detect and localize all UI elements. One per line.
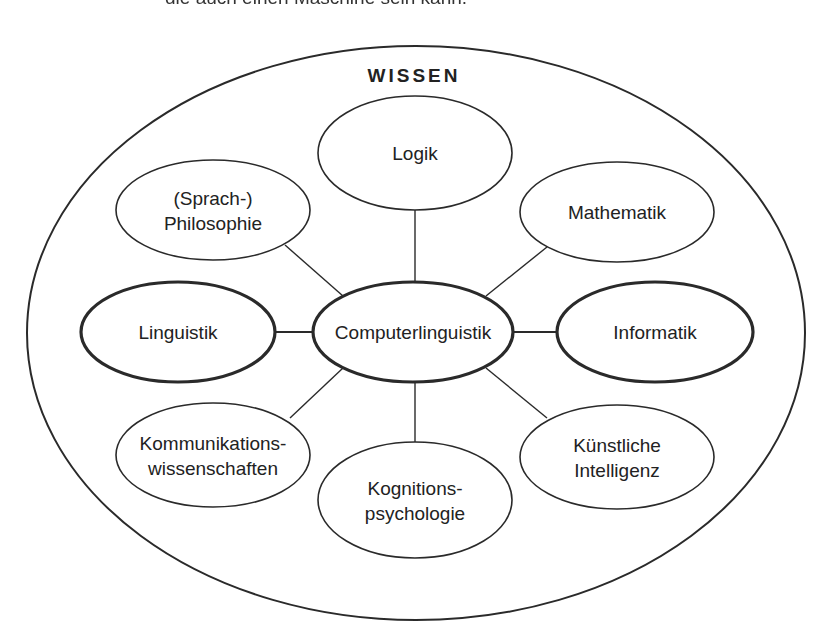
node-kuenstliche-intelligenz: KünstlicheIntelligenz [520, 405, 714, 509]
philosophie-label: Philosophie [164, 213, 262, 234]
node-computerlinguistik: Computerlinguistik [313, 282, 513, 382]
kommunikationswissenschaften-label: wissenschaften [147, 458, 278, 479]
node-kognitionspsychologie: Kognitions-psychologie [318, 442, 512, 558]
kuenstliche-intelligenz-label: Intelligenz [574, 460, 660, 481]
node-mathematik: Mathematik [520, 162, 714, 262]
linguistik-label: Linguistik [138, 322, 218, 343]
informatik-label: Informatik [613, 322, 697, 343]
kuenstliche-intelligenz-ellipse [520, 405, 714, 509]
node-logik: Logik [318, 96, 512, 210]
mathematik-label: Mathematik [568, 202, 667, 223]
node-informatik: Informatik [557, 282, 753, 382]
link-mathematik [486, 247, 547, 296]
node-philosophie: (Sprach-)Philosophie [116, 160, 310, 260]
kommunikationswissenschaften-label: Kommunikations- [140, 433, 287, 454]
kognitionspsychologie-ellipse [318, 442, 512, 558]
link-kommunikationswissenschaften [290, 368, 343, 418]
kognitionspsychologie-label: Kognitions- [367, 478, 462, 499]
computerlinguistik-label: Computerlinguistik [335, 322, 492, 343]
kognitionspsychologie-label: psychologie [365, 503, 465, 524]
kuenstliche-intelligenz-label: Künstliche [573, 435, 661, 456]
philosophie-label: (Sprach-) [173, 188, 252, 209]
node-linguistik: Linguistik [81, 282, 275, 382]
link-kuenstliche-intelligenz [486, 368, 547, 418]
knowledge-diagram: WISSEN Logik(Sprach-)PhilosophieMathemat… [0, 0, 828, 633]
philosophie-ellipse [116, 160, 310, 260]
node-kommunikationswissenschaften: Kommunikations-wissenschaften [116, 403, 310, 507]
kommunikationswissenschaften-ellipse [116, 403, 310, 507]
diagram-title: WISSEN [368, 65, 461, 86]
logik-label: Logik [392, 143, 438, 164]
link-philosophie [285, 245, 343, 296]
